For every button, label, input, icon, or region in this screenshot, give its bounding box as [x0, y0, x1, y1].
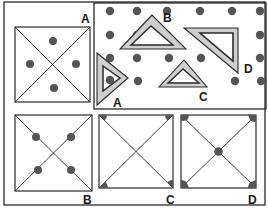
option-c[interactable]: C — [99, 115, 175, 207]
puzzle-figure: A B D C — [0, 0, 268, 210]
dot-bottom — [50, 84, 58, 92]
triangle-d: D — [184, 28, 253, 76]
svg-text:C: C — [199, 90, 208, 104]
reference-square-a: A — [15, 12, 90, 102]
svg-text:D: D — [244, 62, 253, 76]
svg-text:A: A — [113, 96, 122, 110]
dot-top — [49, 37, 57, 45]
triangle-c: C — [159, 60, 208, 104]
option-d-label: D — [248, 193, 257, 207]
option-c-label: C — [166, 193, 175, 207]
dot-right — [72, 60, 80, 68]
svg-text:B: B — [163, 11, 172, 25]
triangle-b: B — [120, 11, 186, 49]
label-a-square: A — [81, 12, 90, 26]
dot-grid-panel: B D C A — [94, 3, 266, 110]
option-b[interactable]: B — [15, 115, 92, 207]
option-b-label: B — [83, 193, 92, 207]
triangle-a: A — [97, 53, 128, 110]
option-d[interactable]: D — [181, 115, 257, 207]
dot-left — [26, 60, 34, 68]
